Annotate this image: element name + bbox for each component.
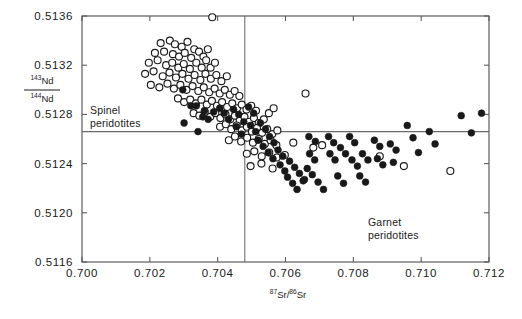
data-point [426,128,433,135]
data-point [181,49,188,56]
data-point [260,143,267,150]
y-tick-label-5: 0.5136 [34,10,73,22]
data-point [447,167,454,174]
data-point [186,65,193,72]
data-point [330,139,337,146]
data-point [221,110,228,117]
data-point [274,127,281,134]
data-point [205,116,212,123]
data-point [270,155,277,162]
data-point [154,57,161,64]
data-point [400,163,407,170]
data-point [342,150,349,157]
data-point [290,139,297,146]
data-point [458,112,465,119]
y-tick-label-0: 0.5116 [35,256,73,268]
data-point [296,170,303,177]
data-point [284,174,291,181]
data-point [306,133,313,140]
data-point [354,163,361,170]
y-tick-label-3: 0.5128 [34,108,73,120]
x-tick-label-4: 0.708 [337,267,369,279]
data-point [432,141,439,148]
data-point [371,137,378,144]
data-point [171,41,178,48]
data-point [179,70,186,77]
data-point [304,165,311,172]
y-axis-title-numerator: 143Nd [30,74,53,86]
data-point [211,59,218,66]
data-point [201,107,208,114]
y-tick-label-4: 0.5132 [34,59,73,71]
data-point [150,68,157,75]
data-point [189,83,196,90]
x-tick-label-6: 0.712 [473,267,505,279]
data-point [349,157,356,164]
data-point [270,105,277,112]
data-point [210,109,217,116]
data-point [319,142,326,149]
data-point [166,69,173,76]
data-point [310,144,317,151]
data-point [156,84,163,91]
data-point [387,141,394,148]
data-point [142,70,149,77]
data-point [157,40,164,47]
data-point [159,73,166,80]
x-tick-label-5: 0.710 [405,267,437,279]
data-point [213,72,220,79]
data-point [275,147,282,154]
data-point [325,133,332,140]
data-point [145,59,152,66]
y-tick-label-2: 0.5124 [34,158,73,170]
data-point [415,149,422,156]
data-point [291,164,298,171]
data-point [327,150,334,157]
data-point [332,157,339,164]
y-tick-label-1: 0.5120 [34,207,73,219]
data-point [181,120,188,127]
data-point [281,168,288,175]
data-point [390,159,397,166]
data-point [302,90,309,97]
data-point [374,155,381,162]
data-point [209,14,216,21]
plot-frame [82,16,489,262]
data-point [265,149,272,156]
data-point [179,86,186,93]
data-point [468,129,475,136]
x-tick-label-2: 0.704 [202,267,234,279]
data-point [410,134,417,141]
data-point [312,138,319,145]
data-point [238,131,245,138]
x-tick-label-0: 0.700 [66,267,98,279]
data-point [376,143,383,150]
data-point [320,186,327,193]
x-tick-label-1: 0.702 [134,267,166,279]
x-tick-label-3: 0.706 [270,267,302,279]
data-point [262,126,269,133]
data-point [257,120,264,127]
data-point [169,59,176,66]
data-point [245,104,252,111]
data-point [236,92,243,99]
data-point [337,144,344,151]
data-point [286,158,293,165]
data-point [269,165,276,172]
garnet-peridotites-label-line2: peridotites [368,229,419,241]
data-point [164,80,171,87]
data-point [233,123,240,130]
data-point [223,73,230,80]
spinel-peridotites-label-line1: Spinel [90,104,120,116]
data-point [255,137,262,144]
data-point [240,118,247,125]
data-point [334,173,341,180]
data-point [404,122,411,129]
data-point [247,163,254,170]
data-point [197,76,204,83]
x-axis-title: 87Sr/86Sr [270,288,306,300]
series-spinel-peridotites [142,14,454,175]
data-point [277,161,284,168]
data-point [170,85,177,92]
data-point [161,48,168,55]
